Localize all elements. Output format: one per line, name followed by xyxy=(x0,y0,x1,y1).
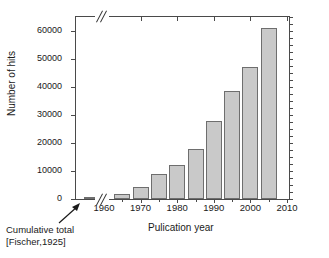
bar-series xyxy=(76,17,289,199)
x-axis-tick-label: 1980 xyxy=(157,203,197,213)
x-axis-minor-tick xyxy=(122,199,123,202)
bar xyxy=(261,28,277,199)
bar xyxy=(206,121,222,199)
y-axis-minor-tick xyxy=(289,150,293,151)
y-axis-tick-label: 40000 xyxy=(0,82,62,91)
y-axis-minor-tick xyxy=(289,80,293,81)
y-axis-minor-tick xyxy=(289,87,293,88)
bar-chart-figure: Number of hits 0100002000030000400005000… xyxy=(0,0,329,258)
y-axis-minor-tick xyxy=(289,143,293,144)
y-axis-minor-tick xyxy=(289,178,293,179)
y-axis-tick-label: 10000 xyxy=(0,166,62,175)
annotation-arrow-icon xyxy=(57,203,83,225)
y-axis-tick-label: 0 xyxy=(0,194,62,203)
x-axis-minor-tick xyxy=(159,199,160,202)
y-axis-minor-tick xyxy=(289,157,293,158)
bar xyxy=(242,67,258,199)
y-axis-minor-tick xyxy=(289,199,293,200)
y-axis-minor-tick xyxy=(289,129,293,130)
y-axis-minor-tick xyxy=(289,185,293,186)
x-axis-tick-label: 2010 xyxy=(267,203,307,213)
x-axis-tick-label: 1990 xyxy=(194,203,234,213)
bar xyxy=(188,149,204,199)
x-axis-minor-tick xyxy=(269,199,270,202)
y-axis-minor-tick xyxy=(289,24,293,25)
y-axis-tick-label: 50000 xyxy=(0,54,62,63)
y-axis-minor-tick xyxy=(289,31,293,32)
y-axis-minor-tick xyxy=(289,171,293,172)
cumulative-total-annotation: Cumulative total [Fischer,1925] xyxy=(6,224,74,248)
y-axis-minor-tick xyxy=(289,38,293,39)
y-axis-minor-tick xyxy=(289,52,293,53)
bar xyxy=(151,174,167,199)
y-axis-minor-tick xyxy=(289,59,293,60)
x-axis-tick-label: 1970 xyxy=(121,203,161,213)
y-axis-minor-tick xyxy=(289,164,293,165)
annotation-line-1: Cumulative total xyxy=(6,224,74,236)
y-axis-tick xyxy=(71,199,76,200)
x-axis-minor-tick xyxy=(196,199,197,202)
y-axis-minor-tick xyxy=(289,66,293,67)
bar xyxy=(224,91,240,199)
y-axis-minor-tick xyxy=(289,17,293,18)
x-axis-minor-tick xyxy=(232,199,233,202)
annotation-line-2: [Fischer,1925] xyxy=(6,236,74,248)
y-axis-minor-tick xyxy=(289,94,293,95)
top-axis-break-icon xyxy=(95,11,109,22)
bar xyxy=(133,187,149,199)
y-axis-minor-tick xyxy=(289,192,293,193)
bar xyxy=(114,194,130,199)
y-axis-tick-label: 60000 xyxy=(0,26,62,35)
x-axis-tick-label: 1960 xyxy=(84,203,124,213)
y-axis-minor-tick xyxy=(289,45,293,46)
y-axis-tick-label: 20000 xyxy=(0,138,62,147)
y-axis-minor-tick xyxy=(289,108,293,109)
y-axis-tick-label: 30000 xyxy=(0,110,62,119)
y-axis-minor-tick xyxy=(289,73,293,74)
bar xyxy=(169,165,185,199)
y-axis-minor-tick xyxy=(289,101,293,102)
y-axis-minor-tick xyxy=(289,136,293,137)
y-axis-minor-tick xyxy=(289,115,293,116)
y-axis-minor-tick xyxy=(289,122,293,123)
x-axis-tick-label: 2000 xyxy=(230,203,270,213)
x-axis-title: Pulication year xyxy=(148,222,214,233)
